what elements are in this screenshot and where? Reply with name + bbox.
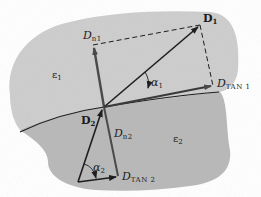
texture-overlay	[0, 0, 261, 197]
diagram-canvas	[0, 0, 261, 197]
label-epsilon1: ε1	[52, 70, 62, 82]
label-dtan1: DTAN 1	[217, 78, 250, 91]
label-d1: D1	[203, 13, 218, 25]
label-epsilon2: ε2	[173, 134, 183, 146]
label-dn1: Dn1	[83, 30, 102, 43]
label-dtan2: DTAN 2	[122, 171, 155, 184]
label-alpha2: α2	[93, 162, 105, 175]
label-d2: D2	[81, 115, 96, 127]
label-alpha1: α1	[151, 77, 163, 90]
label-dn2: Dn2	[114, 128, 133, 141]
